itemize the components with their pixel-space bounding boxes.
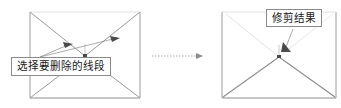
grip-square-icon — [277, 55, 281, 58]
transition-arrow-head — [196, 53, 203, 59]
before-diagonal-right — [85, 12, 140, 56]
callout-select-segment: 选择要删除的线段 — [11, 57, 111, 76]
before-leader-line-2 — [40, 38, 117, 57]
cursor-arrow-icon — [281, 42, 291, 52]
callout-select-segment-label: 选择要删除的线段 — [17, 61, 105, 72]
after-triangle-right-leg — [279, 57, 335, 97]
callout-trim-result-label: 修剪结果 — [272, 13, 316, 24]
transition-arrow — [152, 53, 203, 59]
cursor-arrow-icon — [110, 36, 120, 42]
before-panel — [30, 12, 140, 98]
trim-operation-figure: 选择要删除的线段 修剪结果 — [0, 0, 341, 108]
after-triangle-left-leg — [223, 57, 279, 97]
callout-trim-result: 修剪结果 — [266, 9, 322, 27]
